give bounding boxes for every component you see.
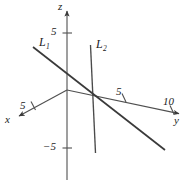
z-axis-label: z [58,1,62,12]
x-tick-label-5: 5 [20,100,26,111]
line-label-L1-subscript: 1 [46,42,50,51]
coordinate-diagram-figure: z x y 5 −5 5 5 10 L1 L2 [0,0,189,185]
line-label-L2-base: L [96,37,103,51]
line-L2 [91,45,96,153]
line-label-L2-subscript: 2 [103,44,107,53]
y-tick-label-10: 10 [163,96,174,107]
axes-and-lines-canvas [0,0,189,185]
x-axis-line [19,90,67,116]
line-label-L1-base: L [39,35,46,49]
line-label-L1: L1 [39,36,49,48]
y-tick-label-5: 5 [116,86,122,97]
line-label-L2: L2 [96,38,106,50]
y-axis-label: y [174,115,179,126]
z-tick-label-5: 5 [51,26,57,37]
line-L1 [33,47,165,150]
x-axis-label: x [5,114,10,125]
y-tick-5 [122,94,126,103]
z-tick-label-negative-5: −5 [43,141,56,152]
